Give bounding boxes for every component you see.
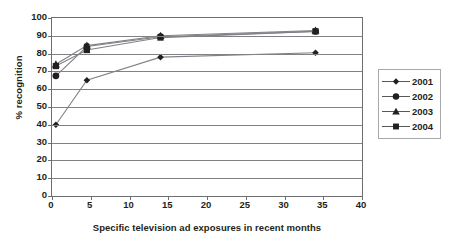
gridline-y-60: [52, 89, 362, 90]
y-tick-label-20: 20: [18, 154, 47, 164]
data-point-2002-0.5: [52, 72, 59, 79]
legend-label-2004: 2004: [410, 122, 433, 132]
square-marker-icon: [382, 121, 410, 132]
y-tick-mark-40: [48, 125, 52, 126]
y-tick-label-40: 40: [18, 119, 47, 129]
data-point-2001-14: [157, 54, 164, 61]
y-tick-mark-80: [48, 54, 52, 55]
legend-label-2002: 2002: [410, 92, 433, 102]
data-point-2001-4.5: [84, 77, 91, 84]
y-tick-mark-90: [48, 36, 52, 37]
gridline-y-70: [52, 71, 362, 72]
legend-marker-2001: [382, 76, 410, 87]
x-axis-tick-labels: 0510152025303540: [0, 200, 449, 214]
gridline-y-80: [52, 54, 362, 55]
y-tick-mark-50: [48, 107, 52, 108]
y-tick-label-50: 50: [18, 101, 47, 111]
gridline-y-90: [52, 36, 362, 37]
y-tick-label-90: 90: [18, 30, 47, 40]
legend-label-2001: 2001: [410, 77, 433, 87]
gridline-y-50: [52, 107, 362, 108]
diamond-marker-icon: [382, 76, 410, 87]
y-tick-mark-20: [48, 160, 52, 161]
y-tick-mark-10: [48, 178, 52, 179]
x-tick-label-30: 30: [278, 200, 289, 210]
y-tick-mark-70: [48, 71, 52, 72]
x-axis-title: Specific television ad exposures in rece…: [51, 222, 363, 233]
y-tick-label-80: 80: [18, 48, 47, 58]
legend-marker-2003: [382, 106, 410, 117]
legend: 2001200220032004: [378, 69, 441, 139]
data-point-2004-4.5: [84, 47, 90, 53]
gridline-y-10: [52, 178, 362, 179]
y-tick-label-10: 10: [18, 172, 47, 182]
x-tick-label-15: 15: [162, 200, 173, 210]
y-tick-mark-30: [48, 143, 52, 144]
gridline-y-40: [52, 125, 362, 126]
data-point-2004-0.5: [53, 63, 59, 69]
gridline-y-100: [52, 18, 362, 19]
x-tick-label-20: 20: [201, 200, 212, 210]
triangle-marker-icon: [382, 106, 410, 117]
x-tick-label-5: 5: [87, 200, 92, 210]
legend-label-2003: 2003: [410, 107, 433, 117]
y-tick-label-100: 100: [18, 12, 47, 22]
legend-item-2001[interactable]: 2001: [382, 74, 437, 89]
y-tick-label-60: 60: [18, 83, 47, 93]
y-tick-label-30: 30: [18, 137, 47, 147]
gridline-y-20: [52, 160, 362, 161]
x-tick-label-40: 40: [356, 200, 367, 210]
legend-item-2004[interactable]: 2004: [382, 119, 437, 134]
chart-figure: % recognition 0102030405060708090100 051…: [0, 0, 449, 241]
data-point-2004-34: [312, 28, 318, 34]
y-tick-label-0: 0: [18, 190, 47, 200]
y-tick-mark-60: [48, 89, 52, 90]
y-tick-label-70: 70: [18, 65, 47, 75]
x-tick-label-35: 35: [317, 200, 328, 210]
circle-marker-icon: [382, 91, 410, 102]
x-tick-label-0: 0: [48, 200, 53, 210]
y-tick-mark-100: [48, 18, 52, 19]
gridline-y-30: [52, 143, 362, 144]
legend-marker-2002: [382, 91, 410, 102]
plot-area: [51, 17, 363, 197]
legend-marker-2004: [382, 121, 410, 132]
legend-item-2003[interactable]: 2003: [382, 104, 437, 119]
legend-item-2002[interactable]: 2002: [382, 89, 437, 104]
x-tick-label-25: 25: [239, 200, 250, 210]
x-tick-label-10: 10: [123, 200, 134, 210]
